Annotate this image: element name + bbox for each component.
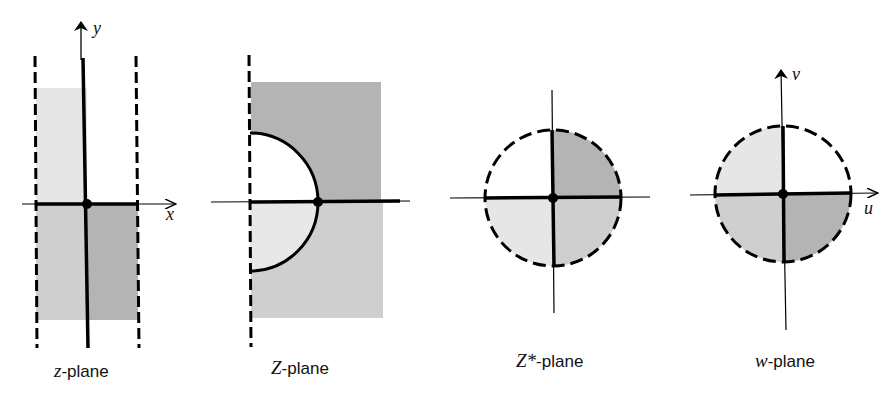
Z-plane-panel xyxy=(211,55,410,347)
w-plane-label-var: w xyxy=(755,350,768,371)
z-region-lower-left xyxy=(36,204,87,320)
w-v-axis-label: v xyxy=(792,64,800,85)
z-plane-panel xyxy=(22,22,176,348)
z-region-upper-left xyxy=(36,88,87,204)
Zstar-plane-label-suffix: -plane xyxy=(536,352,583,371)
Zstar-plane-label: Z*-plane xyxy=(516,350,583,372)
Zstar-plane-panel xyxy=(450,90,650,313)
Zstar-plane-label-var: Z* xyxy=(516,350,536,371)
Z-plane-label: Z-plane xyxy=(271,357,329,379)
Z-plane-label-var: Z xyxy=(271,357,282,378)
w-plane-label: w-plane xyxy=(755,350,815,372)
w-plane-label-suffix: -plane xyxy=(768,352,815,371)
z-x-axis-label: x xyxy=(166,204,174,225)
Zstar-origin-point xyxy=(548,193,558,203)
Zstar-region-lower-right xyxy=(553,198,621,266)
w-region-lower-right xyxy=(783,194,851,262)
Z-point xyxy=(313,197,323,207)
w-u-axis-label: u xyxy=(864,198,873,219)
conformal-mapping-figure: y x v u z-plane Z-plane Z*-plane w-plane xyxy=(0,0,890,395)
Z-horizontal-axis-thick xyxy=(250,201,400,202)
z-region-lower-right xyxy=(87,204,138,320)
w-plane-panel xyxy=(690,70,878,330)
w-origin-point xyxy=(778,189,788,199)
z-plane-label-suffix: -plane xyxy=(61,362,108,381)
z-origin-point xyxy=(82,199,92,209)
z-y-axis-label: y xyxy=(93,18,101,39)
Z-plane-label-suffix: -plane xyxy=(282,359,329,378)
z-plane-label: z-plane xyxy=(54,360,109,382)
